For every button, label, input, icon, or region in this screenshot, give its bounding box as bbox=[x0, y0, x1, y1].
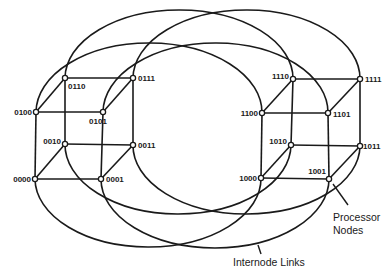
node-label-0101: 0101 bbox=[89, 117, 107, 126]
node-1100 bbox=[259, 110, 264, 115]
node-label-0110: 0110 bbox=[68, 82, 86, 91]
cube-edge-1001-1011 bbox=[329, 146, 360, 179]
node-label-0010: 0010 bbox=[43, 137, 61, 146]
node-label-0000: 0000 bbox=[13, 175, 31, 184]
node-1111 bbox=[357, 76, 362, 81]
processor-nodes-pointer bbox=[333, 184, 348, 205]
node-label-1000: 1000 bbox=[239, 174, 257, 183]
cube-edge-0000-0100 bbox=[35, 112, 36, 179]
cube-edge-1000-1010 bbox=[261, 145, 291, 178]
cube-edge-1000-1001 bbox=[261, 178, 329, 179]
node-label-1111: 1111 bbox=[365, 75, 382, 84]
node-1011 bbox=[357, 143, 362, 148]
cube-edge-1100-1110 bbox=[262, 79, 293, 113]
node-label-1110: 1110 bbox=[272, 72, 289, 81]
internode-link-0001-1001 bbox=[101, 179, 329, 248]
cube-edge-1010-1110 bbox=[291, 79, 293, 145]
cube-edge-0000-0010 bbox=[35, 144, 65, 179]
node-0011 bbox=[130, 142, 135, 147]
node-0000 bbox=[32, 176, 37, 181]
cube-edge-0001-0011 bbox=[101, 145, 133, 179]
cube-edge-1101-1111 bbox=[328, 79, 360, 113]
node-0001 bbox=[98, 176, 103, 181]
node-1001 bbox=[326, 176, 331, 181]
processor-nodes-caption-line2: Nodes bbox=[333, 224, 363, 236]
node-label-1100: 1100 bbox=[241, 109, 259, 118]
node-1101 bbox=[325, 110, 330, 115]
node-label-0100: 0100 bbox=[14, 108, 32, 117]
node-0100 bbox=[33, 109, 38, 114]
node-1000 bbox=[258, 175, 263, 180]
node-0110 bbox=[62, 75, 67, 80]
internode-links-pointer bbox=[258, 245, 261, 254]
cube-edge-1010-1011 bbox=[291, 145, 360, 146]
cube-edge-0101-0111 bbox=[103, 78, 133, 112]
internode-links-caption: Internode Links bbox=[233, 256, 305, 268]
cube-edge-1000-1100 bbox=[261, 113, 262, 178]
node-0101 bbox=[100, 109, 105, 114]
node-label-1001: 1001 bbox=[308, 167, 326, 176]
node-label-1011: 1011 bbox=[363, 142, 381, 151]
internode-links bbox=[35, 10, 360, 248]
node-1010 bbox=[288, 142, 293, 147]
cube-edge-1001-1101 bbox=[328, 113, 329, 179]
node-label-1010: 1010 bbox=[269, 137, 287, 146]
processor-nodes bbox=[32, 75, 362, 181]
node-labels: 0000000100100011010001010110011110001001… bbox=[13, 72, 382, 184]
cube-edges bbox=[35, 78, 360, 179]
node-0111 bbox=[130, 75, 135, 80]
internode-link-0110-1110 bbox=[65, 10, 293, 79]
processor-nodes-caption-line1: Processor bbox=[333, 211, 381, 223]
node-label-0011: 0011 bbox=[138, 141, 156, 150]
hypercube-diagram: 0000000100100011010001010110011110001001… bbox=[0, 0, 392, 270]
node-label-1101: 1101 bbox=[333, 110, 351, 119]
node-1110 bbox=[290, 76, 295, 81]
cube-edge-0010-0011 bbox=[65, 144, 133, 145]
node-label-0111: 0111 bbox=[138, 74, 155, 83]
node-label-0001: 0001 bbox=[106, 175, 124, 184]
node-0010 bbox=[62, 141, 67, 146]
